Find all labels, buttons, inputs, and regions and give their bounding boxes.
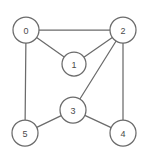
graph-edge-0-1 xyxy=(37,38,65,58)
graph-diagram: 012345 xyxy=(0,0,149,159)
graph-node-label-1: 1 xyxy=(71,60,76,70)
graph-node-label-4: 4 xyxy=(120,129,125,139)
graph-node-2[interactable]: 2 xyxy=(110,17,136,43)
graph-node-label-2: 2 xyxy=(120,26,125,36)
graph-node-0[interactable]: 0 xyxy=(13,17,39,43)
graph-node-3[interactable]: 3 xyxy=(60,97,86,123)
graph-node-label-5: 5 xyxy=(22,129,27,139)
graph-edge-3-4 xyxy=(85,115,111,127)
graph-node-4[interactable]: 4 xyxy=(110,120,136,146)
graph-node-5[interactable]: 5 xyxy=(12,120,38,146)
graph-edge-0-5 xyxy=(25,43,26,120)
graph-node-label-3: 3 xyxy=(70,106,75,116)
graph-node-1[interactable]: 1 xyxy=(62,52,86,76)
graph-edge-2-3 xyxy=(80,41,116,99)
nodes-layer: 012345 xyxy=(12,17,136,146)
graph-node-label-0: 0 xyxy=(23,26,28,36)
graph-edge-3-5 xyxy=(37,116,62,128)
